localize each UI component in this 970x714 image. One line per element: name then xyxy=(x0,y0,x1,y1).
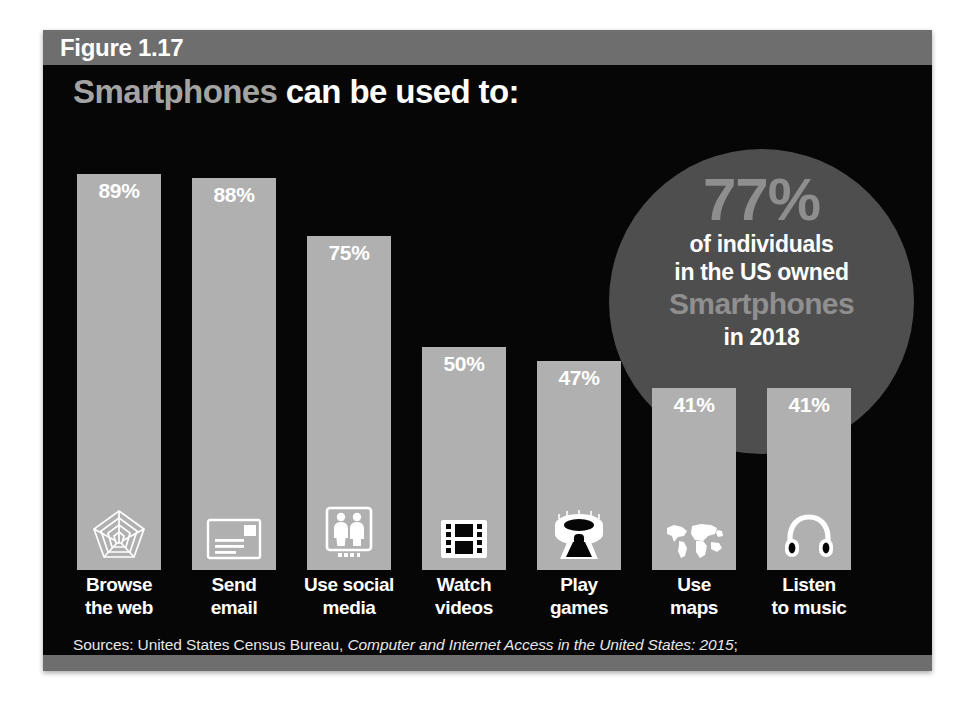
category-label: Playgames xyxy=(524,573,634,619)
category-label-line: Send xyxy=(179,573,289,596)
chart-title-emphasis: Smartphones xyxy=(73,73,277,110)
category-label-line: Listen xyxy=(754,573,864,596)
sources-line-1: Sources: United States Census Bureau, Co… xyxy=(73,635,909,655)
category-label-line: to music xyxy=(754,596,864,619)
chart-title: Smartphones can be used to: xyxy=(73,75,519,108)
figure-container: Figure 1.17 Smartphones can be used to: … xyxy=(43,30,932,671)
category-label: Watchvideos xyxy=(409,573,519,619)
world-map-icon xyxy=(652,504,736,560)
category-label-line: email xyxy=(179,596,289,619)
category-axis-labels: Browsethe webSendemailUse socialmediaWat… xyxy=(73,573,903,629)
bar-value-label: 41% xyxy=(767,393,851,417)
bar: 41% xyxy=(767,388,851,570)
sources-line-1-title: Computer and Internet Access in the Unit… xyxy=(348,636,734,653)
figure-number-label: Figure 1.17 xyxy=(60,34,183,62)
bar-column: 88% xyxy=(192,178,276,570)
sources-line-1-suffix: ; xyxy=(733,636,737,653)
sources-line-1-prefix: Sources: United States Census Bureau, xyxy=(73,636,348,653)
bar-column: 41% xyxy=(767,388,851,570)
category-label-line: videos xyxy=(409,596,519,619)
bar-column: 41% xyxy=(652,388,736,570)
bar: 75% xyxy=(307,236,391,570)
category-label-line: the web xyxy=(64,596,174,619)
bar-column: 50% xyxy=(422,347,506,570)
bar: 41% xyxy=(652,388,736,570)
chart-title-rest: can be used to: xyxy=(277,73,519,110)
category-label: Use socialmedia xyxy=(294,573,404,619)
sources-note: Sources: United States Census Bureau, Co… xyxy=(73,635,909,655)
bar: 47% xyxy=(537,361,621,570)
category-label: Sendemail xyxy=(179,573,289,619)
bar-column: 89% xyxy=(77,174,161,570)
category-label-line: Watch xyxy=(409,573,519,596)
bar-value-label: 75% xyxy=(307,241,391,265)
category-label: Usemaps xyxy=(639,573,749,619)
stadium-icon xyxy=(537,504,621,560)
envelope-icon xyxy=(192,504,276,560)
bar-value-label: 88% xyxy=(192,183,276,207)
figure-footer-band xyxy=(43,655,932,671)
category-label-line: Use social xyxy=(294,573,404,596)
bar-value-label: 47% xyxy=(537,366,621,390)
category-label: Browsethe web xyxy=(64,573,174,619)
bar: 50% xyxy=(422,347,506,570)
category-label-line: media xyxy=(294,596,404,619)
figure-header-band: Figure 1.17 xyxy=(43,30,932,65)
bar-chart-plot: 89% 88% 75% 50% xyxy=(73,125,903,570)
category-label-line: maps xyxy=(639,596,749,619)
category-label-line: Browse xyxy=(64,573,174,596)
bar-value-label: 41% xyxy=(652,393,736,417)
bar-column: 75% xyxy=(307,236,391,570)
film-strip-icon xyxy=(422,504,506,560)
bar: 89% xyxy=(77,174,161,570)
category-label: Listento music xyxy=(754,573,864,619)
category-label-line: games xyxy=(524,596,634,619)
spider-web-icon xyxy=(77,504,161,560)
bar: 88% xyxy=(192,178,276,570)
bar-value-label: 89% xyxy=(77,179,161,203)
headphones-icon xyxy=(767,504,851,560)
chart-stage: Smartphones can be used to: 77% of indiv… xyxy=(43,65,932,655)
category-label-line: Use xyxy=(639,573,749,596)
social-people-icon xyxy=(307,504,391,560)
bar-value-label: 50% xyxy=(422,352,506,376)
category-label-line: Play xyxy=(524,573,634,596)
bar-column: 47% xyxy=(537,361,621,570)
